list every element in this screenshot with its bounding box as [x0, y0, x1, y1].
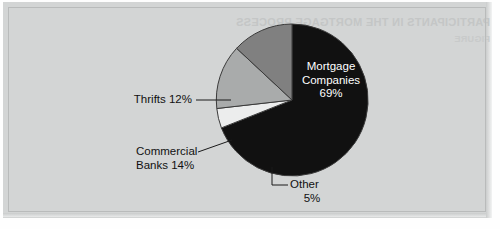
- leader-line-commercial-banks: [198, 140, 232, 152]
- pie-label-commercial-banks-line2: Banks 14%: [136, 159, 194, 173]
- pie-label-commercial-banks: Commercial Banks 14%: [136, 145, 194, 172]
- scanned-page: PARTICIPANTS IN THE MORTGAGE PROCESS FIG…: [0, 0, 500, 229]
- pie-label-mortgage-companies-value: 69%: [286, 87, 376, 101]
- pie-label-mortgage-companies-line2: Companies: [286, 74, 376, 88]
- pie-chart: [0, 0, 500, 229]
- pie-label-other-text: Other: [290, 178, 350, 192]
- pie-label-other-value: 5%: [290, 192, 334, 206]
- pie-label-mortgage-companies: Mortgage Companies 69%: [286, 60, 376, 101]
- pie-label-other: Other 5%: [290, 178, 350, 205]
- pie-label-thrifts: Thrifts 12%: [126, 93, 192, 107]
- pie-label-commercial-banks-line1: Commercial: [136, 145, 194, 159]
- pie-chart-svg: [0, 0, 500, 229]
- pie-label-thrifts-text: Thrifts 12%: [126, 93, 192, 107]
- pie-label-mortgage-companies-line1: Mortgage: [286, 60, 376, 74]
